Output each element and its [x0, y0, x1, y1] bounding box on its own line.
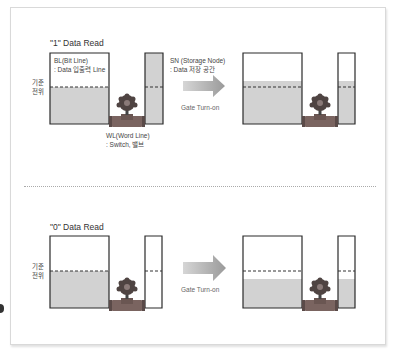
gate-turn-on-label: Gate Turn-on: [181, 286, 219, 293]
reference-potential-label: 기준 전위: [32, 262, 44, 280]
diagram-canvas: [0, 0, 393, 349]
word-line-label: WL(Word Line) : Switch, 밸브: [106, 131, 150, 149]
reference-potential-label: 기준 전위: [32, 78, 44, 96]
one-data-read-title: "1" Data Read: [50, 38, 104, 48]
valve-icon: [109, 278, 145, 312]
zero-data-read-title: "0" Data Read: [50, 222, 104, 232]
diagram-one-after: [243, 53, 355, 127]
valve-icon: [109, 94, 145, 128]
section-divider: [24, 186, 376, 187]
right-arrow-icon: [183, 75, 225, 97]
bit-line-label: BL(Bit Line) : Data 입출력 Line: [54, 56, 105, 74]
gate-turn-on-label: Gate Turn-on: [181, 104, 219, 111]
storage-node-label: SN (Storage Node) : Data 저장 공간: [170, 56, 225, 74]
right-arrow-icon: [183, 255, 226, 281]
diagram-zero-after: [243, 236, 355, 311]
valve-icon: [302, 278, 338, 312]
diagram-zero-before: [50, 236, 162, 311]
valve-icon: [302, 94, 338, 128]
